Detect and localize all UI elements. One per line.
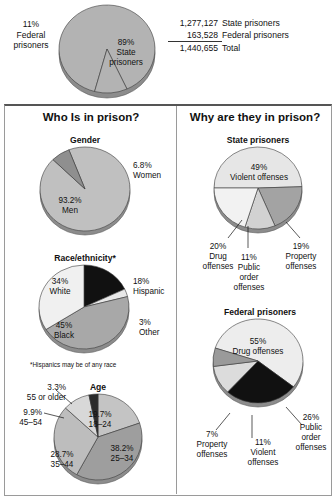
federal-prisoners-label: 11% Federal prisoners [2, 19, 60, 51]
white-name: White [50, 287, 71, 296]
hispanic-pct: 18% [133, 277, 149, 286]
federal-drug-name: Drug offenses [233, 347, 284, 356]
white-pct: 34% [52, 277, 68, 286]
women-name: Women [133, 171, 161, 180]
race-black-label: 45% Black [40, 321, 88, 341]
state-public-l3: offenses [234, 283, 265, 292]
totals-table: 1,277,127 State prisoners 163,528 Federa… [168, 18, 289, 55]
panel-title-who: Who Is in prison? [5, 111, 177, 123]
state-total-number: 1,277,127 [168, 18, 222, 30]
gender-men-label: 93.2% Men [38, 196, 102, 216]
gender-women-label: 6.8% Women [133, 161, 161, 181]
state-public-l1: Public [238, 263, 260, 272]
age-3544-name: 35–44 [51, 460, 74, 469]
state-leader-lines [190, 200, 336, 248]
age-2534-label: 38.2% 25–34 [100, 444, 144, 464]
gender-chart-title: Gender [30, 135, 140, 145]
race-white-label: 34% White [36, 277, 84, 297]
federal-property-l2: offenses [197, 450, 228, 459]
state-pct: 89% [118, 38, 134, 47]
age-leader-lines [0, 380, 180, 430]
federal-drug-label: 55% Drug offenses [212, 337, 304, 357]
other-name: Other [139, 328, 159, 337]
column-divider [176, 106, 177, 494]
top-section: 11% Federal prisoners 89% State prisoner… [0, 0, 336, 104]
other-pct: 3% [139, 318, 151, 327]
age-3544-label: 28.7% 35–44 [38, 450, 86, 470]
federal-line1: Federal [17, 30, 46, 40]
federal-violent-l1: Violent [251, 448, 276, 457]
federal-total-number: 163,528 [168, 30, 222, 43]
race-hispanic-label: 18% Hispanic [133, 277, 164, 297]
federal-pct: 11% [23, 19, 39, 29]
state-violent-name: Violent offenses [230, 173, 288, 182]
state-public-pct: 11% [241, 253, 257, 262]
state-property-l2: offenses [286, 262, 317, 271]
state-violent-pct: 49% [251, 163, 267, 172]
federal-drug-pct: 55% [250, 337, 266, 346]
state-violent-label: 49% Violent offenses [212, 163, 306, 183]
grand-total-number: 1,440,655 [168, 43, 222, 55]
age-2534-pct: 38.2% [110, 444, 133, 453]
federal-chart-title: Federal prisoners [205, 307, 315, 317]
state-line2: prisoners [109, 58, 143, 67]
state-drug-l1: Drug [209, 252, 227, 261]
panel-title-why: Why are they in prison? [178, 111, 332, 123]
state-public-order-label: 11% Public order offenses [226, 253, 272, 293]
age-2534-name: 25–34 [111, 454, 134, 463]
federal-line2: prisoners [14, 40, 49, 50]
men-name: Men [62, 206, 78, 215]
state-property-l1: Property [286, 252, 317, 261]
grand-total-label: Total [222, 43, 240, 55]
federal-public-l3: offenses [296, 443, 327, 452]
state-line1: State [116, 48, 135, 57]
federal-total-label: Federal prisoners [222, 30, 289, 43]
state-chart-title: State prisoners [205, 135, 311, 145]
federal-violent-l2: offenses [248, 458, 279, 467]
state-public-l2: order [239, 273, 258, 282]
infographic-page: 11% Federal prisoners 89% State prisoner… [0, 0, 336, 499]
state-prisoners-label: 89% State prisoners [95, 38, 157, 68]
race-other-label: 3% Other [139, 318, 159, 338]
black-name: Black [54, 331, 74, 340]
federal-leader-lines [186, 385, 336, 443]
men-pct: 93.2% [58, 196, 81, 205]
state-total-label: State prisoners [222, 18, 280, 30]
race-chart-title: Race/ethnicity* [25, 253, 145, 263]
women-pct: 6.8% [133, 161, 152, 170]
age-3544-pct: 28.7% [50, 450, 73, 459]
totals-row-sum: 1,440,655 Total [168, 42, 289, 55]
gender-pie-chart [38, 145, 134, 237]
black-pct: 45% [56, 321, 72, 330]
gender-pie-svg [38, 145, 134, 237]
race-footnote: *Hispanics may be of any race [30, 361, 116, 368]
hispanic-name: Hispanic [133, 287, 164, 296]
totals-row-state: 1,277,127 State prisoners [168, 18, 289, 30]
totals-row-federal: 163,528 Federal prisoners [168, 30, 289, 43]
